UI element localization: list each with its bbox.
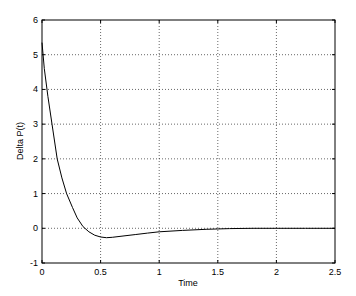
y-tick-label: 4 (33, 84, 38, 94)
x-tick-label: 0 (39, 267, 44, 277)
x-axis-label: Time (178, 278, 198, 288)
y-tick-label: -1 (30, 258, 38, 268)
y-axis-label: Delta P(t) (15, 122, 25, 160)
x-tick-label: 1.5 (212, 267, 225, 277)
y-tick-label: 3 (33, 119, 38, 129)
x-tick-label: 1 (157, 267, 162, 277)
y-tick-label: 1 (33, 189, 38, 199)
x-tick-label: 2.5 (329, 267, 342, 277)
plot-area (42, 20, 335, 263)
line-chart: 00.511.522.5-10123456 Time Delta P(t) (0, 0, 356, 296)
y-tick-label: 6 (33, 15, 38, 25)
x-tick-label: 2 (274, 267, 279, 277)
y-tick-label: 0 (33, 223, 38, 233)
y-tick-label: 5 (33, 50, 38, 60)
y-tick-label: 2 (33, 154, 38, 164)
x-tick-label: 0.5 (94, 267, 107, 277)
